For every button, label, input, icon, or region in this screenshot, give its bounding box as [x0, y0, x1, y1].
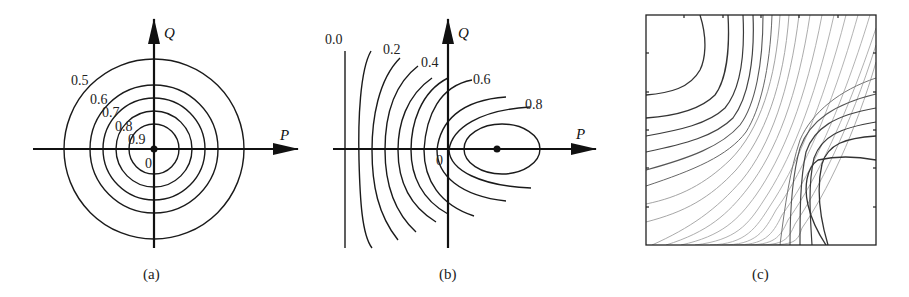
q-axis-label: Q	[458, 25, 469, 41]
q-axis-label: Q	[164, 25, 175, 41]
contour-label-0.7: 0.7	[102, 105, 120, 120]
contour-label-0.9: 0.9	[128, 132, 146, 147]
contour-label-0.0: 0.0	[325, 32, 343, 47]
panel-c: (c)	[646, 15, 876, 283]
p-axis-label: P	[279, 127, 289, 143]
center-point	[494, 146, 501, 153]
contour-arc	[411, 78, 448, 214]
caption-b: (b)	[439, 266, 457, 283]
contour-label-0.8: 0.8	[525, 97, 543, 112]
origin-label: 0	[145, 156, 152, 171]
panel-a: Q P 0 0.5 0.6 0.7 0.8 0.9 (a)	[33, 19, 298, 283]
contour-label-0.2: 0.2	[383, 42, 401, 57]
contour-0.8	[449, 107, 531, 188]
caption-c: (c)	[752, 266, 769, 283]
contour-label-0.4: 0.4	[421, 55, 439, 70]
panel-c-contours	[646, 15, 876, 245]
contour-label-0.5: 0.5	[71, 73, 89, 88]
origin-point	[151, 146, 158, 153]
caption-a: (a)	[143, 266, 160, 283]
figure-canvas: Q P 0 0.5 0.6 0.7 0.8 0.9 (a) Q P	[0, 0, 909, 297]
p-axis-label: P	[575, 126, 585, 142]
panel-b: Q P 0 0.0 0.2 0.4 0.6 0.8 (b)	[325, 19, 596, 283]
contour-label-0.6: 0.6	[473, 72, 491, 87]
origin-label: 0	[436, 153, 443, 168]
